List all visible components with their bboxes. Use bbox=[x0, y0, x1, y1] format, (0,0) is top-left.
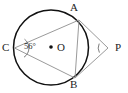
vertex-label-b: B bbox=[70, 79, 77, 90]
vertex-label-p: P bbox=[115, 42, 121, 53]
angle-measure-label-c: 56° bbox=[24, 42, 36, 51]
vertex-label-a: A bbox=[70, 2, 78, 13]
angle-arc-at-p bbox=[98, 44, 99, 53]
vertex-label-o: O bbox=[57, 42, 65, 53]
chord-AB bbox=[75, 20, 79, 78]
geometry-figure: A B C O P 56° bbox=[0, 0, 128, 93]
segment-AP bbox=[79, 20, 108, 48]
segment-BP bbox=[75, 48, 108, 78]
center-point-dot bbox=[49, 45, 53, 49]
vertex-label-c: C bbox=[2, 42, 9, 53]
